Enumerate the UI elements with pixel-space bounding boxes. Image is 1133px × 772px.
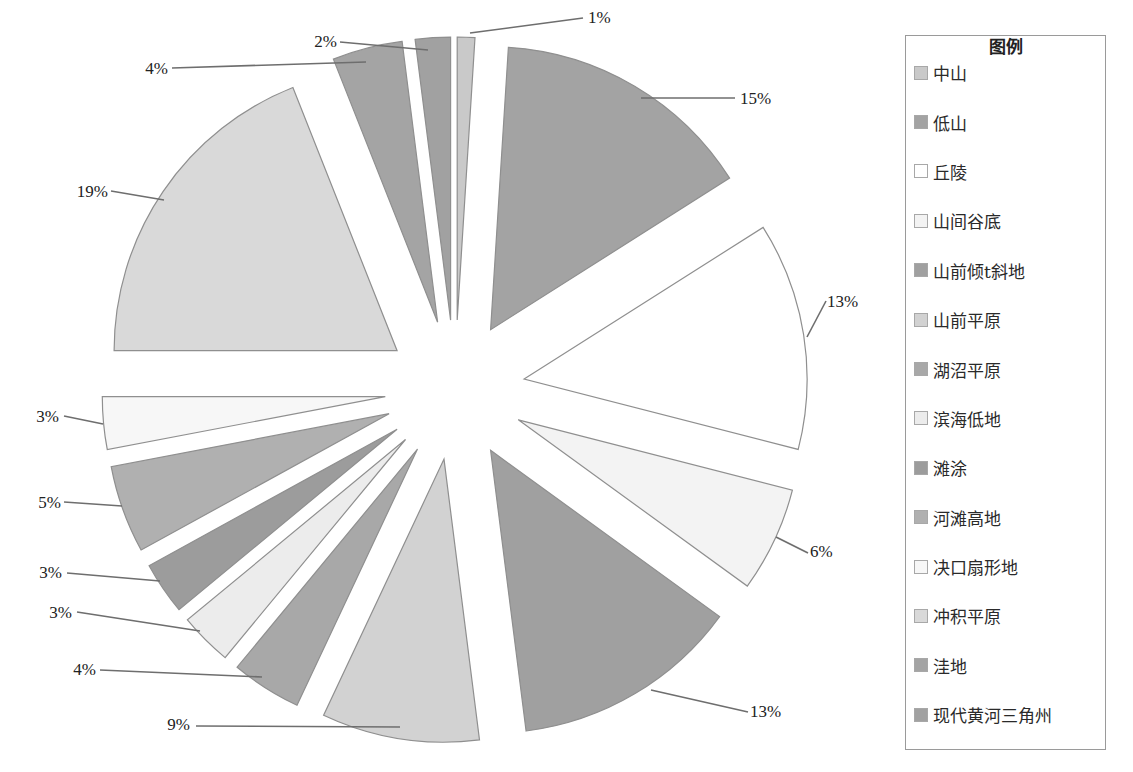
legend-item: 低山 xyxy=(914,97,1101,146)
legend-item: 湖沼平原 xyxy=(914,344,1101,393)
legend-swatch-icon xyxy=(914,411,928,425)
percent-label: 4% xyxy=(73,660,96,679)
percent-label: 5% xyxy=(38,493,61,512)
legend-label: 低山 xyxy=(933,110,967,135)
legend-label: 山前倾t斜地 xyxy=(933,258,1025,283)
legend-item: 丘陵 xyxy=(914,147,1101,196)
legend-label: 洼地 xyxy=(933,653,967,678)
leader-line xyxy=(111,191,164,200)
pie-slice xyxy=(114,88,397,351)
legend-swatch-icon xyxy=(914,658,928,672)
legend-item: 滩涂 xyxy=(914,443,1101,492)
legend-label: 滩涂 xyxy=(933,455,967,480)
legend-swatch-icon xyxy=(914,313,928,327)
leader-line xyxy=(64,502,122,506)
legend-swatch-icon xyxy=(914,164,928,178)
leader-line xyxy=(67,573,160,581)
legend-swatch-icon xyxy=(914,510,928,524)
legend-item: 冲积平原 xyxy=(914,591,1101,640)
legend-item: 山前平原 xyxy=(914,295,1101,344)
legend-item: 滨海低地 xyxy=(914,394,1101,443)
percent-label: 6% xyxy=(810,542,833,561)
legend-label: 湖沼平原 xyxy=(933,357,1001,382)
legend-label: 山前平原 xyxy=(933,307,1001,332)
leader-line xyxy=(77,612,200,631)
legend-label: 山间谷底 xyxy=(933,208,1001,233)
legend-label: 河滩高地 xyxy=(933,505,1001,530)
leader-line xyxy=(776,537,808,553)
percent-label: 13% xyxy=(750,702,781,721)
legend-swatch-icon xyxy=(914,609,928,623)
percent-label: 15% xyxy=(740,89,771,108)
leader-line xyxy=(64,416,103,424)
legend-swatch-icon xyxy=(914,214,928,228)
legend-swatch-icon xyxy=(914,461,928,475)
pie-slice xyxy=(457,37,475,320)
percent-label: 3% xyxy=(36,407,59,426)
legend-swatch-icon xyxy=(914,708,928,722)
legend-item: 中山 xyxy=(914,48,1101,97)
percent-label: 4% xyxy=(145,59,168,78)
legend-label: 滨海低地 xyxy=(933,406,1001,431)
legend-swatch-icon xyxy=(914,362,928,376)
percent-label: 19% xyxy=(77,182,108,201)
legend-swatch-icon xyxy=(914,115,928,129)
legend-item: 山间谷底 xyxy=(914,196,1101,245)
legend-item: 决口扇形地 xyxy=(914,542,1101,591)
legend-label: 丘陵 xyxy=(933,159,967,184)
pie-slices xyxy=(102,37,807,742)
legend-item: 现代黄河三角州 xyxy=(914,690,1101,739)
legend-item: 河滩高地 xyxy=(914,493,1101,542)
legend-list: 中山低山丘陵山间谷底山前倾t斜地山前平原湖沼平原滨海低地滩涂河滩高地决口扇形地冲… xyxy=(914,48,1101,739)
legend-swatch-icon xyxy=(914,560,928,574)
percent-label: 1% xyxy=(588,8,611,27)
leader-line xyxy=(470,18,583,33)
legend-item: 山前倾t斜地 xyxy=(914,246,1101,295)
percent-label: 3% xyxy=(49,603,72,622)
percent-label: 2% xyxy=(314,32,337,51)
leader-line xyxy=(196,726,400,727)
legend-item: 洼地 xyxy=(914,641,1101,690)
legend-swatch-icon xyxy=(914,263,928,277)
legend-label: 现代黄河三角州 xyxy=(933,702,1052,727)
leader-line xyxy=(651,690,748,712)
percent-label: 9% xyxy=(167,715,190,734)
legend-label: 冲积平原 xyxy=(933,603,1001,628)
leader-line xyxy=(807,301,826,337)
percent-label: 3% xyxy=(39,563,62,582)
legend: 图例 中山低山丘陵山间谷底山前倾t斜地山前平原湖沼平原滨海低地滩涂河滩高地决口扇… xyxy=(905,35,1106,750)
percent-label: 13% xyxy=(827,292,858,311)
leader-line xyxy=(100,670,262,677)
legend-swatch-icon xyxy=(914,66,928,80)
legend-label: 决口扇形地 xyxy=(933,554,1018,579)
legend-label: 中山 xyxy=(933,60,967,85)
